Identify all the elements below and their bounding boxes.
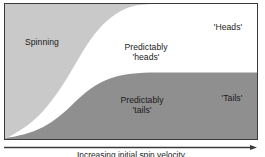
plot-area: Spinning Predictably 'heads' 'Heads' Pre…	[4, 3, 258, 140]
x-axis-caption: Increasing initial spin velocity	[4, 150, 258, 157]
region-shading-svg	[5, 4, 257, 139]
figure-container: Spinning Predictably 'heads' 'Heads' Pre…	[0, 0, 265, 157]
